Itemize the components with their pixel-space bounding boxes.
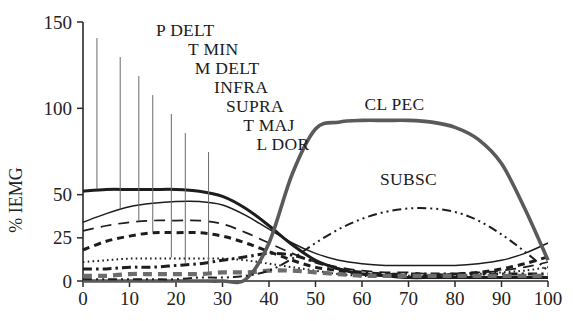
y-axis-title: % IEMG (6, 167, 26, 233)
x-axis-tick-label: 30 (213, 288, 232, 309)
y-axis-tick-label: 100 (44, 98, 73, 119)
y-axis-tick-label: 150 (44, 12, 73, 33)
series-label-supra: SUPRA (226, 96, 284, 116)
x-axis-tick-label: 0 (78, 288, 88, 309)
y-axis-tick-label: 50 (53, 184, 72, 205)
series-label-cl-pec: CL PEC (365, 94, 425, 114)
y-axis-tick-label: 25 (53, 227, 72, 248)
series-label-infra: INFRA (214, 77, 268, 97)
series-label-p-delt: P DELT (156, 20, 214, 40)
y-axis-tick-label: 0 (63, 271, 73, 292)
series-label-t-maj: T MAJ (243, 115, 294, 135)
series-label-t-min: T MIN (188, 39, 238, 59)
series-label-m-delt: M DELT (195, 58, 260, 78)
x-axis-tick-label: 70 (399, 288, 418, 309)
x-axis-tick-label: 60 (353, 288, 372, 309)
chart-container: 010203040506070809010002550100150% IEMGP… (0, 0, 573, 321)
x-axis-tick-label: 100 (534, 288, 563, 309)
series-label-l-dor: L DOR (257, 134, 310, 154)
x-axis-tick-label: 10 (120, 288, 139, 309)
iemg-line-chart: 010203040506070809010002550100150% IEMGP… (0, 0, 573, 321)
x-axis-tick-label: 50 (306, 288, 325, 309)
series-label-subsc: SUBSC (380, 169, 437, 189)
x-axis-tick-label: 90 (492, 288, 511, 309)
series-line-infra (83, 232, 548, 276)
x-axis-tick-label: 40 (260, 288, 279, 309)
x-axis-tick-label: 80 (446, 288, 465, 309)
x-axis-tick-label: 20 (167, 288, 186, 309)
